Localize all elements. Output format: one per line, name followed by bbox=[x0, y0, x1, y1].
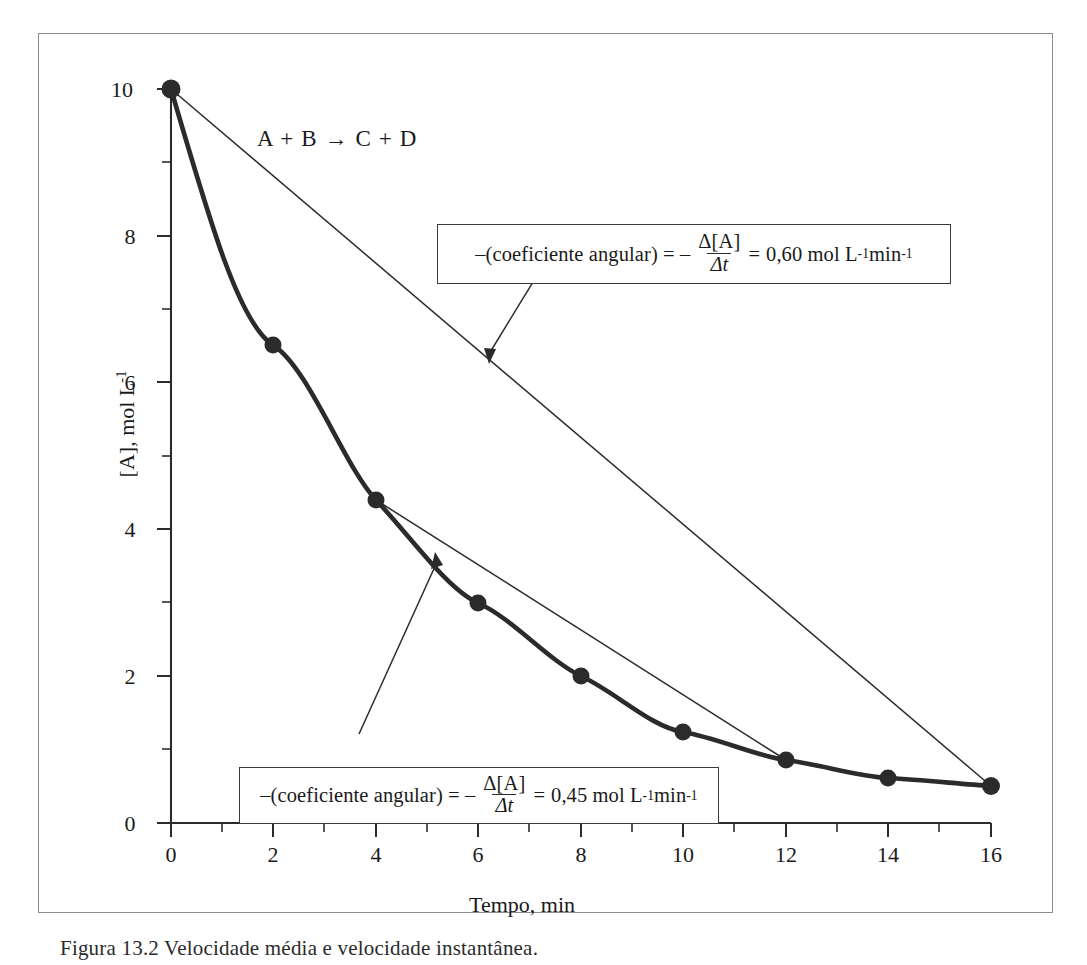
annotation-box-average-rate-4-12: –(coeficiente angular) = – Δ[A] Δt = 0,4… bbox=[239, 767, 719, 824]
annotation-1-denominator: Δt bbox=[707, 253, 731, 275]
data-point bbox=[368, 492, 385, 509]
x-tick-label-2: 2 bbox=[258, 842, 288, 868]
annotation-1-numerator: Δ[A] bbox=[695, 231, 743, 252]
annotation-1-lead: –(coeficiente angular) = – bbox=[475, 243, 690, 266]
y-axis-title-exponent: -1 bbox=[113, 371, 129, 383]
data-point bbox=[162, 80, 181, 99]
y-tick-label-0: 0 bbox=[117, 811, 143, 837]
annotation-2-fraction: Δ[A] Δt bbox=[480, 773, 528, 817]
annotation-1-value: 0,60 mol L bbox=[766, 243, 858, 266]
x-tick-label-4: 4 bbox=[361, 842, 391, 868]
y-tick-label-2: 2 bbox=[117, 664, 143, 690]
annotation-1-fraction: Δ[A] Δt bbox=[695, 231, 743, 275]
y-minor-ticks bbox=[162, 162, 171, 749]
figure-frame: A + B → C + D 0 2 4 6 8 10 0 2 4 6 8 10 … bbox=[38, 33, 1053, 913]
x-axis-title: Tempo, min bbox=[469, 892, 575, 918]
leader-arrow-box2 bbox=[359, 552, 443, 734]
y-axis-title: [A], mol L-1 bbox=[114, 324, 140, 524]
x-tick-label-14: 14 bbox=[869, 842, 907, 868]
x-tick-label-12: 12 bbox=[767, 842, 805, 868]
figure-caption: Figura 13.2 Velocidade média e velocidad… bbox=[60, 936, 538, 961]
y-tick-label-8: 8 bbox=[117, 224, 143, 250]
data-point bbox=[573, 668, 590, 685]
data-point bbox=[778, 752, 795, 769]
data-point bbox=[880, 770, 897, 787]
annotation-1-unit: min bbox=[869, 243, 901, 266]
annotation-box-average-rate-0-16: –(coeficiente angular) = – Δ[A] Δt = 0,6… bbox=[437, 224, 951, 284]
annotation-2-value: 0,45 mol L bbox=[551, 784, 643, 807]
x-tick-label-0: 0 bbox=[156, 842, 186, 868]
x-tick-label-8: 8 bbox=[566, 842, 596, 868]
x-major-ticks bbox=[171, 823, 991, 837]
y-tick-label-10: 10 bbox=[101, 77, 143, 103]
annotation-2-lead: –(coeficiente angular) = – bbox=[260, 784, 475, 807]
data-point bbox=[982, 777, 1000, 795]
x-tick-label-10: 10 bbox=[664, 842, 702, 868]
x-tick-label-6: 6 bbox=[463, 842, 493, 868]
annotation-2-denominator: Δt bbox=[492, 794, 516, 816]
data-point bbox=[675, 724, 692, 741]
data-point bbox=[265, 337, 282, 354]
x-tick-label-16: 16 bbox=[972, 842, 1010, 868]
y-axis-title-text: [A], mol L bbox=[114, 383, 139, 478]
annotation-2-numerator: Δ[A] bbox=[480, 773, 528, 794]
data-point bbox=[470, 595, 487, 612]
annotation-2-equals: = bbox=[533, 784, 545, 807]
secant-line-average-4-12 bbox=[376, 500, 786, 760]
reaction-equation-label: A + B → C + D bbox=[257, 126, 417, 152]
annotation-1-equals: = bbox=[748, 243, 760, 266]
annotation-2-unit: min bbox=[654, 784, 686, 807]
